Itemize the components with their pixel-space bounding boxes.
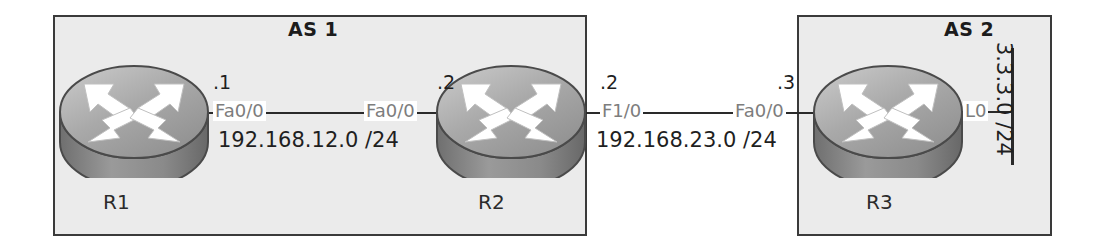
interface-label-r1-fa00: Fa0/0 — [213, 101, 266, 121]
as-label-as1: AS 1 — [288, 18, 338, 40]
subnet-label-loopback: 3.3.3.0 /24 — [992, 42, 1016, 156]
interface-label-r3-fa00: Fa0/0 — [733, 101, 786, 121]
as-label-as2: AS 2 — [944, 18, 994, 40]
router-name-r3: R3 — [866, 190, 893, 214]
subnet-label-r1-r2: 192.168.12.0 /24 — [218, 128, 399, 152]
host-octet-r1-fa00: .1 — [213, 71, 231, 93]
interface-label-r2-f10: F1/0 — [600, 101, 643, 121]
router-name-r2: R2 — [478, 190, 505, 214]
router-icon-r1[interactable] — [58, 50, 210, 178]
host-octet-r3-fa00: .3 — [777, 71, 795, 93]
router-name-r1: R1 — [103, 190, 130, 214]
host-octet-r2-f10: .2 — [600, 71, 618, 93]
subnet-label-r2-r3: 192.168.23.0 /24 — [596, 128, 777, 152]
host-octet-r2-fa00: .2 — [437, 71, 455, 93]
interface-label-r3-l0: L0 — [963, 101, 988, 121]
interface-label-r2-fa00: Fa0/0 — [364, 101, 417, 121]
router-icon-r3[interactable] — [812, 50, 964, 178]
router-icon-r2[interactable] — [435, 50, 587, 178]
